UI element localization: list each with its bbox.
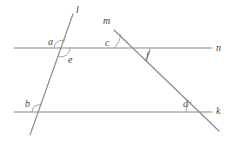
angle-label-b: b bbox=[25, 99, 30, 109]
line-label-l: l bbox=[76, 5, 79, 15]
line-label-n: n bbox=[216, 43, 221, 53]
line-label-k: k bbox=[216, 106, 220, 116]
line-label-m: m bbox=[103, 16, 110, 26]
geometry-canvas bbox=[0, 0, 237, 146]
angle-arc-c bbox=[114, 34, 121, 48]
geometry-diagram: n k l m a e c f b d bbox=[0, 0, 237, 146]
angle-label-c: c bbox=[105, 38, 109, 48]
line-m bbox=[114, 30, 219, 131]
angle-label-d: d bbox=[183, 99, 188, 109]
line-l bbox=[30, 14, 73, 135]
angle-label-a: a bbox=[48, 37, 53, 47]
angle-label-f: f bbox=[146, 51, 149, 61]
angle-label-e: e bbox=[68, 55, 72, 65]
